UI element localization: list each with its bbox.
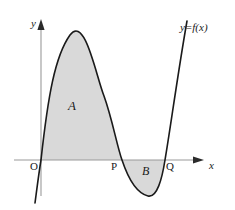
y-axis-label: y	[31, 18, 36, 29]
point-p-label: P	[111, 161, 117, 172]
region-b-label: B	[142, 165, 149, 177]
region-a-label: A	[68, 99, 76, 112]
function-graph-figure: O P Q A B x y y=f(x)	[0, 0, 235, 210]
y-axis-arrowhead	[37, 19, 44, 30]
x-axis-label: x	[209, 160, 214, 171]
origin-label: O	[30, 161, 38, 172]
function-label: y=f(x)	[180, 22, 208, 33]
shaded-region-a	[41, 31, 122, 160]
point-q-label: Q	[166, 161, 174, 172]
x-axis-arrowhead	[193, 157, 204, 164]
